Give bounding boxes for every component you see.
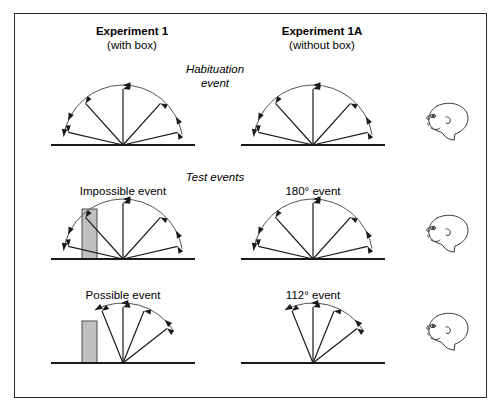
- diagram-possible-event: [33, 301, 213, 381]
- figure-panel: Experiment 1 (with box) Experiment 1A (w…: [0, 0, 504, 416]
- event-label-impossible: Impossible event: [38, 185, 208, 197]
- infant-head-habituation: [424, 96, 476, 148]
- event-label-possible: Possible event: [38, 289, 208, 301]
- diagram-180-event: [223, 197, 403, 277]
- diagram-impossible-event: [33, 197, 213, 277]
- row-title-line1: Habituation: [186, 63, 244, 75]
- event-label-180: 180° event: [228, 185, 398, 197]
- row-title-test-events: Test events: [135, 170, 295, 184]
- diagram-habituation-without-box: [223, 83, 403, 163]
- infant-head-test-2: [424, 306, 476, 358]
- diagram-112-event: [223, 301, 403, 381]
- column-title-sub: (without box): [232, 38, 412, 52]
- infant-head-test-1: [424, 208, 476, 260]
- column-title-experiment-1: Experiment 1 (with box): [42, 24, 222, 52]
- column-title-experiment-1a: Experiment 1A (without box): [232, 24, 412, 52]
- diagram-habituation-with-box: [33, 83, 213, 163]
- event-label-112: 112° event: [228, 289, 398, 301]
- column-title-main: Experiment 1A: [232, 24, 412, 38]
- column-title-sub: (with box): [42, 38, 222, 52]
- row-title-line1: Test events: [186, 171, 244, 183]
- column-title-main: Experiment 1: [42, 24, 222, 38]
